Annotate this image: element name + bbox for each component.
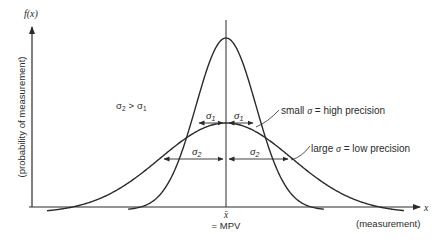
small-sigma-annotation: small σ = high precision — [281, 105, 385, 116]
mpv-label: = MPV — [212, 220, 241, 231]
large-sigma-annotation: large σ = low precision — [311, 143, 410, 154]
sigma2-left-label: σ2 — [192, 145, 201, 158]
x-axis-symbol: x — [423, 202, 429, 213]
sigma-relation: σ2>σ1 — [116, 100, 147, 112]
precision-diagram: σ1 σ1 σ2 σ2 small σ = high precision lar… — [0, 0, 445, 242]
large-sigma-leader — [291, 146, 310, 160]
y-axis-description: (probability of measurement) — [16, 57, 27, 178]
x-axis-description: (measurement) — [356, 218, 420, 229]
mean-symbol: x̄ — [223, 210, 229, 220]
sigma1-left-label: σ1 — [206, 109, 215, 122]
sigma1-right-label: σ1 — [234, 109, 243, 122]
y-axis-symbol: f(x) — [24, 8, 39, 20]
sigma2-right-label: σ2 — [250, 145, 259, 158]
